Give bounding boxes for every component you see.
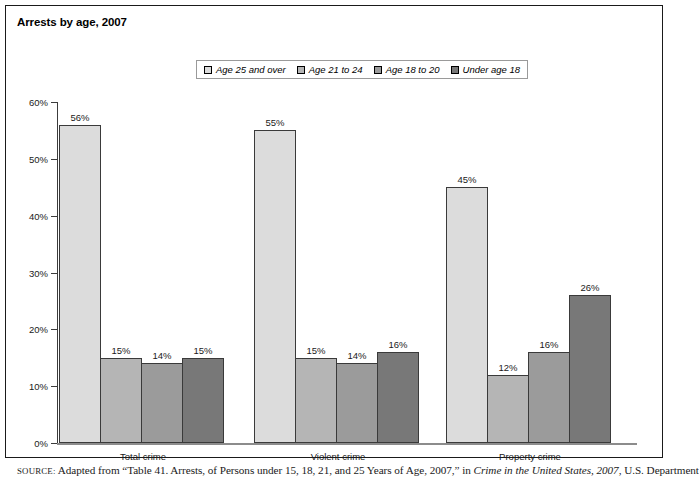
bar[interactable]: 14%	[336, 363, 378, 443]
legend-item[interactable]: Age 25 and over	[204, 64, 286, 75]
y-axis-tick-mark	[51, 443, 57, 444]
bar[interactable]: 14%	[141, 363, 183, 443]
bar-value-label: 16%	[388, 339, 407, 350]
bar[interactable]: 16%	[528, 352, 570, 443]
bar-group: 55%15%14%16%Violent crime	[254, 102, 422, 443]
legend-item[interactable]: Age 21 to 24	[297, 64, 363, 75]
source-label: SOURCE:	[17, 466, 56, 476]
bar[interactable]: 26%	[569, 295, 611, 443]
x-axis-category-label: Property crime	[499, 451, 561, 462]
legend-swatch-icon	[297, 66, 305, 74]
legend-label: Age 25 and over	[216, 64, 286, 75]
y-axis-tick-label: 20%	[29, 324, 48, 335]
bar-group: 45%12%16%26%Property crime	[446, 102, 614, 443]
bar-value-label: 14%	[152, 350, 171, 361]
bar[interactable]: 15%	[100, 358, 142, 443]
bar-value-label: 15%	[193, 345, 212, 356]
bar-value-label: 56%	[70, 112, 89, 123]
bar-value-label: 16%	[539, 339, 558, 350]
source-text-1: Adapted from “Table 41. Arrests, of Pers…	[56, 464, 474, 476]
bar-value-label: 14%	[347, 350, 366, 361]
bar-group-bars: 55%15%14%16%	[254, 102, 422, 443]
y-axis-tick-mark	[51, 386, 57, 387]
bar-group: 56%15%14%15%Total crime	[59, 102, 227, 443]
legend-swatch-icon	[204, 66, 212, 74]
y-axis-tick-label: 60%	[29, 97, 48, 108]
source-text-2: , U.S. Department	[619, 464, 699, 476]
legend-swatch-icon	[374, 66, 382, 74]
bar[interactable]: 55%	[254, 130, 296, 443]
bar-value-label: 55%	[265, 117, 284, 128]
y-axis-tick-label: 0%	[34, 438, 48, 449]
bar[interactable]: 56%	[59, 125, 101, 443]
bar[interactable]: 16%	[377, 352, 419, 443]
y-axis-tick-label: 40%	[29, 210, 48, 221]
bar-value-label: 45%	[457, 174, 476, 185]
y-axis-tick-mark	[51, 216, 57, 217]
bar-value-label: 15%	[306, 345, 325, 356]
y-axis-tick-mark	[51, 159, 57, 160]
bar-value-label: 26%	[580, 282, 599, 293]
x-axis-category-label: Total crime	[120, 451, 166, 462]
legend-label: Age 18 to 20	[386, 64, 440, 75]
legend-swatch-icon	[451, 66, 459, 74]
y-axis-tick-mark	[51, 102, 57, 103]
x-axis-category-label: Violent crime	[311, 451, 366, 462]
legend-label: Age 21 to 24	[309, 64, 363, 75]
page-title: Arrests by age, 2007	[17, 16, 127, 28]
legend-item[interactable]: Age 18 to 20	[374, 64, 440, 75]
plot-area: 0%10%20%30%40%50%60%56%15%14%15%Total cr…	[57, 102, 637, 443]
bar[interactable]: 15%	[295, 358, 337, 443]
source-title-italic: Crime in the United States, 2007	[474, 464, 619, 476]
bar[interactable]: 12%	[487, 375, 529, 443]
y-axis-tick-mark	[51, 273, 57, 274]
bar-value-label: 12%	[498, 362, 517, 373]
y-axis-tick-mark	[51, 329, 57, 330]
y-axis-line	[57, 102, 58, 443]
legend-label: Under age 18	[463, 64, 521, 75]
bar-group-bars: 45%12%16%26%	[446, 102, 614, 443]
bar[interactable]: 15%	[182, 358, 224, 443]
legend-item[interactable]: Under age 18	[451, 64, 521, 75]
bar-value-label: 15%	[111, 345, 130, 356]
bar-group-bars: 56%15%14%15%	[59, 102, 227, 443]
chart-legend: Age 25 and overAge 21 to 24Age 18 to 20U…	[196, 60, 528, 79]
source-note: SOURCE: Adapted from “Table 41. Arrests,…	[17, 464, 664, 476]
x-axis-line	[57, 443, 637, 445]
bar[interactable]: 45%	[446, 187, 488, 443]
y-axis-tick-label: 30%	[29, 267, 48, 278]
y-axis-tick-label: 50%	[29, 153, 48, 164]
y-axis-tick-label: 10%	[29, 381, 48, 392]
